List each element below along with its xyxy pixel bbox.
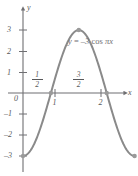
marker-point bbox=[21, 154, 25, 158]
y-tick-label-1: 1 bbox=[7, 69, 11, 77]
equation-label: y = –3 cos πx bbox=[68, 37, 113, 46]
equation-lhs: y bbox=[68, 36, 72, 46]
y-tick-label-minus-1: –1 bbox=[4, 110, 12, 118]
x-axis-label: x bbox=[128, 89, 132, 97]
equation-function: cos bbox=[91, 36, 102, 46]
x-tick-label-1: 1 bbox=[53, 99, 57, 107]
y-tick-label-2: 2 bbox=[7, 48, 11, 56]
marker-point bbox=[132, 154, 136, 158]
equation-coefficient: –3 bbox=[81, 36, 90, 46]
y-axis-label: y bbox=[27, 4, 31, 12]
fraction-numerator: 3 bbox=[73, 71, 84, 79]
equation-equals: = bbox=[74, 36, 79, 46]
fraction-denominator: 2 bbox=[32, 81, 43, 89]
x-tick-label-one-half: 1 2 bbox=[32, 71, 43, 89]
fraction-denominator: 2 bbox=[73, 81, 84, 89]
marker-point bbox=[77, 28, 81, 32]
origin-label: 0 bbox=[14, 95, 18, 103]
plot-canvas bbox=[0, 0, 138, 176]
equation-argument: πx bbox=[105, 36, 113, 46]
y-tick-label-minus-3: –3 bbox=[4, 152, 12, 160]
graph-figure: 3 2 1 –1 –2 –3 0 1 2 1 2 3 2 y x y = –3 … bbox=[0, 0, 138, 176]
x-tick-label-three-halves: 3 2 bbox=[73, 71, 84, 89]
y-tick-label-3: 3 bbox=[7, 26, 11, 34]
fraction-numerator: 1 bbox=[32, 71, 43, 79]
x-tick-label-2: 2 bbox=[99, 99, 103, 107]
y-tick-label-minus-2: –2 bbox=[4, 131, 12, 139]
marker-point bbox=[49, 91, 53, 95]
marker-point bbox=[105, 91, 109, 95]
